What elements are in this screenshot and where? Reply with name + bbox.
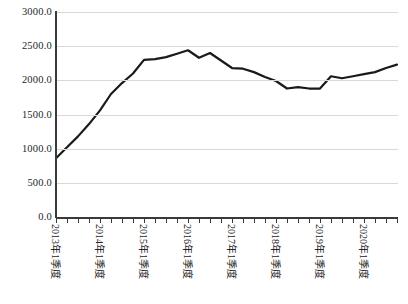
x-axis-tick: [375, 218, 376, 223]
x-axis-tick: [78, 218, 79, 223]
x-axis-tick: [386, 218, 387, 223]
gridline: [56, 80, 398, 81]
x-axis-tick-label: 2016年1季度: [182, 224, 192, 279]
x-axis-tick: [331, 218, 332, 223]
y-axis-line: [55, 11, 57, 218]
x-axis-tick: [232, 218, 233, 223]
x-axis-tick: [155, 218, 156, 223]
x-axis-tick: [67, 218, 68, 223]
gridline: [56, 12, 398, 13]
x-axis-tick: [133, 218, 134, 223]
x-axis-tick: [342, 218, 343, 223]
x-axis-tick: [254, 218, 255, 223]
x-axis-tick: [221, 218, 222, 223]
y-axis-tick-label: 1500.0: [0, 110, 52, 120]
gridline: [56, 115, 398, 116]
gridline: [56, 46, 398, 47]
x-axis-tick-label: 2019年1季度: [314, 224, 324, 279]
x-axis-tick: [320, 218, 321, 223]
x-axis-tick: [111, 218, 112, 223]
x-axis-tick: [166, 218, 167, 223]
x-axis-tick-label: 2013年1季度: [50, 224, 60, 279]
x-axis-tick: [298, 218, 299, 223]
x-axis-tick: [89, 218, 90, 223]
x-axis-tick: [188, 218, 189, 223]
x-axis-tick: [100, 218, 101, 223]
x-axis-tick: [276, 218, 277, 223]
line-chart: 3000.02500.02000.01500.01000.0500.00.0 2…: [0, 0, 408, 304]
x-axis-tick: [144, 218, 145, 223]
x-axis-tick-label: 2017年1季度: [226, 224, 236, 279]
x-axis-tick: [210, 218, 211, 223]
gridline: [56, 183, 398, 184]
x-axis-tick: [122, 218, 123, 223]
y-axis-tick-label: 500.0: [0, 178, 52, 188]
x-axis-tick: [199, 218, 200, 223]
x-axis-tick: [364, 218, 365, 223]
y-axis-tick-labels: 3000.02500.02000.01500.01000.0500.00.0: [0, 0, 52, 304]
x-axis-tick-label: 2018年1季度: [270, 224, 280, 279]
x-axis-tick: [309, 218, 310, 223]
x-axis-tick: [353, 218, 354, 223]
x-axis-tick-label: 2014年1季度: [94, 224, 104, 279]
y-axis-tick-label: 0.0: [0, 212, 52, 222]
x-axis-line: [56, 217, 398, 219]
y-axis-tick-label: 2000.0: [0, 75, 52, 85]
gridline: [56, 149, 398, 150]
x-axis-tick: [177, 218, 178, 223]
x-axis-tick: [287, 218, 288, 223]
x-axis-tick: [265, 218, 266, 223]
y-axis-tick-label: 1000.0: [0, 144, 52, 154]
y-axis-tick-label: 2500.0: [0, 41, 52, 51]
x-axis-tick: [243, 218, 244, 223]
y-axis-tick-label: 3000.0: [0, 7, 52, 17]
x-axis-tick-label: 2020年1季度: [358, 224, 368, 279]
x-axis-tick-label: 2015年1季度: [138, 224, 148, 279]
x-axis-tick: [56, 218, 57, 223]
x-axis-tick: [397, 218, 398, 223]
